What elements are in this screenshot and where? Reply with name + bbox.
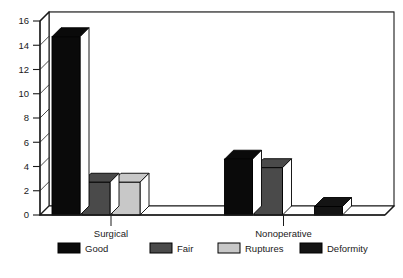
bar-side-face <box>283 159 292 215</box>
legend-swatch-good <box>58 243 80 253</box>
category-label-nonoperative: Nonoperative <box>255 228 312 239</box>
legend-item-fair[interactable]: Fair <box>150 243 193 254</box>
bar-front-face <box>225 159 253 215</box>
bar-side-face <box>253 150 262 215</box>
bar-side-face <box>80 28 89 215</box>
bar-front-face <box>52 37 80 215</box>
legend-label-good: Good <box>85 243 108 254</box>
y-tick-label: 8 <box>24 112 29 123</box>
legend-swatch-ruptures <box>218 243 240 253</box>
legend-label-fair: Fair <box>177 243 193 254</box>
y-tick-label: 10 <box>18 88 29 99</box>
y-tick-label: 2 <box>24 185 29 196</box>
legend-label-deformity: Deformity <box>327 243 368 254</box>
bar-chart: 0246810121416 SurgicalNonoperative GoodF… <box>0 0 403 278</box>
y-tick-label: 4 <box>24 161 29 172</box>
bar-front-face <box>315 207 343 215</box>
y-tick-label: 14 <box>18 40 29 51</box>
bar-surgical-good <box>52 28 89 215</box>
y-tick-label: 6 <box>24 137 29 148</box>
legend-label-ruptures: Ruptures <box>245 243 284 254</box>
legend-swatch-fair <box>150 243 172 253</box>
category-label-surgical: Surgical <box>94 228 128 239</box>
legend-swatch-deformity <box>300 243 322 253</box>
y-tick-label: 12 <box>18 64 29 75</box>
bar-nonoperative-good <box>225 150 262 215</box>
y-tick-label: 16 <box>18 15 29 26</box>
legend-item-deformity[interactable]: Deformity <box>300 243 368 254</box>
chart-canvas: 0246810121416 SurgicalNonoperative GoodF… <box>0 0 403 278</box>
y-tick-label: 0 <box>24 209 29 220</box>
legend-item-ruptures[interactable]: Ruptures <box>218 243 284 254</box>
